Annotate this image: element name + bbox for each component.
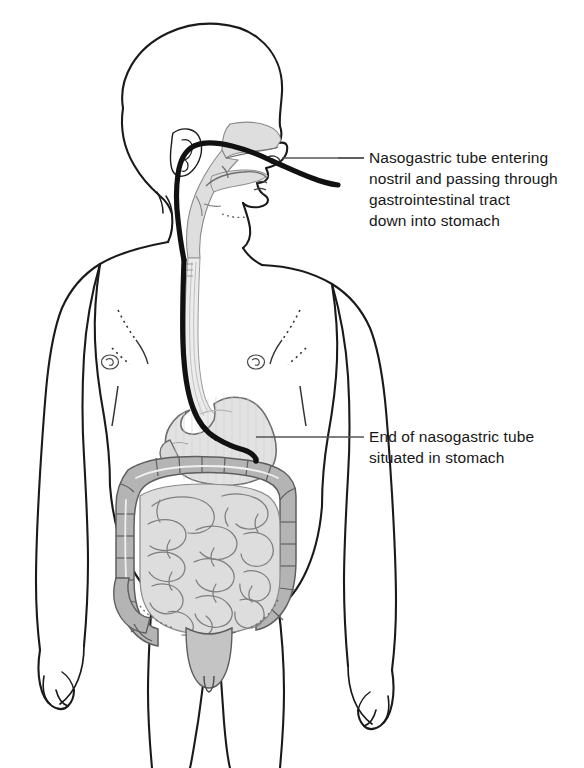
left-nipple-inner: [106, 359, 113, 366]
right-pectoral-dotted-lower: [288, 348, 306, 364]
figure-root: Nasogastric tube entering nostril and pa…: [0, 0, 584, 768]
annotation-nasogastric-entry: Nasogastric tube entering nostril and pa…: [369, 147, 579, 231]
right-hand-knuckle: [358, 692, 370, 710]
head-skull-outline: [122, 24, 282, 126]
left-pectoral-curve: [136, 340, 148, 364]
right-leg-outer-outline: [278, 604, 284, 768]
right-nipple: [248, 355, 265, 369]
jaw-chin-outline: [243, 203, 250, 248]
left-inner-arm-outline: [83, 264, 101, 646]
right-pectoral-curve: [270, 340, 282, 364]
right-nipple-inner: [252, 359, 259, 366]
left-hand-finger-1: [43, 676, 50, 704]
annotation-tube-end-stomach: End of nasogastric tube situated in stom…: [369, 426, 574, 468]
right-hand-thumb: [348, 666, 372, 724]
ng-tube-tip: [253, 458, 258, 463]
left-hand-thumb: [60, 646, 84, 704]
left-nipple: [102, 355, 119, 369]
mandible-dotted-hint: [222, 214, 246, 217]
ng-tube-external-segment: [272, 161, 338, 185]
occiput-neck-outline: [122, 108, 172, 214]
left-hand-knuckle: [62, 672, 74, 690]
right-hand-finger-1: [382, 696, 389, 724]
left-pectoral-dotted-line: [118, 310, 136, 340]
pharynx-shading: [187, 150, 239, 258]
right-pectoral-dotted-line: [282, 310, 300, 340]
left-torso-outline: [95, 264, 110, 486]
right-flank-line: [300, 386, 306, 426]
neck-left-outline: [168, 214, 172, 242]
anatomy-illustration: [0, 0, 584, 768]
neck-right-outline: [243, 248, 262, 265]
right-torso-outline: [322, 284, 337, 506]
small-intestine-group: [140, 484, 280, 635]
rectum-body: [186, 628, 232, 688]
right-inner-arm-outline: [332, 284, 350, 666]
left-flank-line: [112, 386, 118, 426]
rectum-group: [186, 628, 232, 692]
